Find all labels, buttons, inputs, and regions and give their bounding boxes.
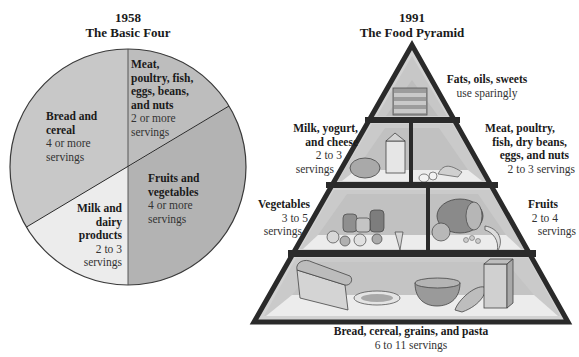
- pyramid-label-meat-name-3: eggs, and nuts: [455, 149, 569, 163]
- pyramid-label-vegetables-servings-1: 3 to 5: [248, 212, 308, 226]
- pie-label-milk-name-3: products: [50, 229, 122, 243]
- pie-label-fv-name-2: vegetables: [148, 186, 238, 200]
- pie-label-bread: Bread and cereal 4 or more servings: [46, 110, 126, 164]
- pie-label-fv-servings-2: servings: [148, 213, 238, 227]
- pyramid-label-meat-name-1: Meat, poultry,: [455, 122, 555, 136]
- pie-label-meat: Meat, poultry, fish, eggs, beans, and nu…: [131, 58, 231, 139]
- pie-label-meat-name-4: and nuts: [131, 99, 231, 113]
- pyramid-label-bread-servings: 6 to 11 servings: [316, 339, 506, 353]
- pie-label-meat-name-1: Meat,: [131, 58, 231, 72]
- pyramid-label-fats-servings: use sparingly: [432, 87, 542, 101]
- pyramid-label-milk-servings-1: 2 to 3: [283, 149, 342, 163]
- pyramid-label-milk-name-1: Milk, yogurt,: [283, 122, 358, 136]
- pyramid-label-vegetables-name: Vegetables: [248, 198, 310, 212]
- pyramid-label-fruits-servings-2: servings: [510, 225, 576, 239]
- pyramid-label-bread: Bread, cereal, grains, and pasta 6 to 11…: [316, 325, 506, 352]
- pie-label-meat-name-2: poultry, fish,: [131, 72, 231, 86]
- pyramid-label-vegetables: Vegetables 3 to 5 servings: [248, 198, 310, 239]
- pie-label-bread-name-1: Bread and: [46, 110, 126, 124]
- pie-label-bread-servings-1: 4 or more: [46, 137, 126, 151]
- pie-label-fv-servings-1: 4 or more: [148, 199, 238, 213]
- pyramid-label-milk-servings-2: servings: [283, 163, 334, 177]
- pyramid-label-fats: Fats, oils, sweets use sparingly: [432, 73, 542, 100]
- pyramid-label-meat: Meat, poultry, fish, dry beans, eggs, an…: [455, 122, 575, 176]
- pyramid-label-milk-name-2: and cheese: [283, 136, 358, 150]
- pyramid-label-vegetables-servings-2: servings: [248, 225, 302, 239]
- pie-label-fruits-vegetables: Fruits and vegetables 4 or more servings: [148, 172, 238, 226]
- cereal-box-icon: [484, 259, 513, 308]
- pie-label-milk-servings-2: servings: [50, 256, 122, 270]
- egg-icon: [419, 174, 429, 182]
- pie-label-milk-servings-1: 2 to 3: [50, 243, 122, 257]
- pyramid-label-meat-servings: 2 to 3 servings: [455, 163, 575, 177]
- pie-label-milk: Milk and dairy products 2 to 3 servings: [50, 202, 122, 270]
- divider-level-3: [426, 187, 430, 252]
- pie-label-meat-servings-2: servings: [131, 126, 231, 140]
- pie-label-meat-name-3: eggs, beans,: [131, 85, 231, 99]
- pie-label-bread-name-2: cereal: [46, 124, 126, 138]
- diagram-graphics: [0, 0, 579, 357]
- pie-label-bread-servings-2: servings: [46, 151, 126, 165]
- pyramid-label-fruits-name: Fruits: [510, 198, 558, 212]
- pyramid-label-fruits-servings-1: 2 to 4: [510, 212, 558, 226]
- shelf-3: [288, 250, 536, 257]
- sweets-box-icon: [393, 88, 427, 115]
- pie-label-meat-servings-1: 2 or more: [131, 112, 231, 126]
- pyramid-label-fruits: Fruits 2 to 4 servings: [510, 198, 576, 239]
- pie-label-milk-name-2: dairy: [50, 216, 122, 230]
- pie-label-milk-name-1: Milk and: [50, 202, 122, 216]
- pie-label-fv-name-1: Fruits and: [148, 172, 238, 186]
- pyramid-label-fats-name: Fats, oils, sweets: [432, 73, 542, 87]
- pyramid-label-milk: Milk, yogurt, and cheese 2 to 3 servings: [283, 122, 358, 176]
- pyramid-label-bread-name: Bread, cereal, grains, and pasta: [316, 325, 506, 339]
- pyramid-label-meat-name-2: fish, dry beans,: [455, 136, 567, 150]
- milk-carton-icon: [386, 133, 405, 173]
- divider-level-2: [409, 122, 413, 184]
